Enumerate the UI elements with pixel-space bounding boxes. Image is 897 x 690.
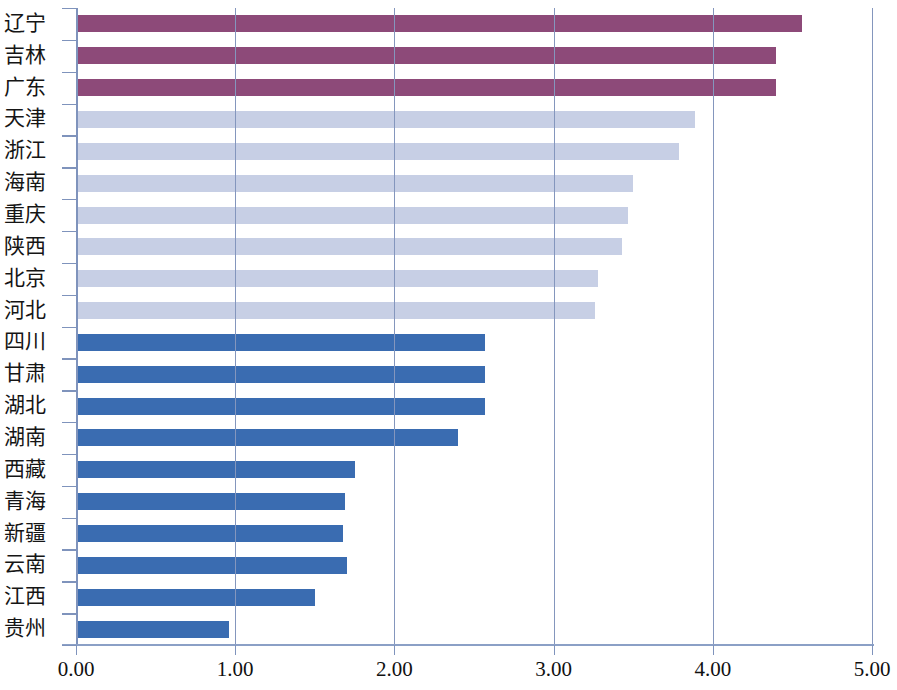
y-tick (62, 8, 76, 9)
bar-重庆 (78, 207, 628, 224)
y-tick (62, 263, 76, 264)
y-axis-label-四川: 四川 (4, 330, 46, 352)
x-tick-5.00 (872, 645, 873, 655)
y-tick (62, 104, 76, 105)
x-axis-label-3.00: 3.00 (535, 658, 572, 680)
y-tick (62, 645, 76, 646)
y-axis-label-陕西: 陕西 (4, 235, 46, 257)
bar-湖北 (78, 398, 485, 415)
bar-海南 (78, 175, 633, 192)
bar-chart: 辽宁吉林广东天津浙江海南重庆陕西北京河北四川甘肃湖北湖南西藏青海新疆云南江西贵州… (0, 0, 897, 690)
bar-广东 (78, 79, 776, 96)
y-tick (62, 581, 76, 582)
y-tick (62, 72, 76, 73)
y-tick (62, 327, 76, 328)
y-axis-labels: 辽宁吉林广东天津浙江海南重庆陕西北京河北四川甘肃湖北湖南西藏青海新疆云南江西贵州 (0, 0, 62, 690)
bar-云南 (78, 557, 347, 574)
y-axis-label-吉林: 吉林 (4, 44, 46, 66)
y-tick (62, 518, 76, 519)
bar-河北 (78, 302, 595, 319)
y-tick (62, 40, 76, 41)
gridline-5.00 (872, 8, 873, 645)
y-axis-label-青海: 青海 (4, 490, 46, 512)
x-axis-label-1.00: 1.00 (217, 658, 254, 680)
x-axis-label-5.00: 5.00 (854, 658, 891, 680)
y-tick (62, 422, 76, 423)
bar-天津 (78, 111, 695, 128)
bar-北京 (78, 270, 598, 287)
gridline-1.00 (235, 8, 236, 645)
x-axis-label-4.00: 4.00 (694, 658, 731, 680)
x-tick-1.00 (235, 645, 236, 655)
bar-青海 (78, 493, 345, 510)
bar-湖南 (78, 429, 458, 446)
bar-辽宁 (78, 15, 802, 32)
y-tick (62, 295, 76, 296)
bar-江西 (78, 589, 315, 606)
x-axis-label-2.00: 2.00 (376, 658, 413, 680)
bar-陕西 (78, 238, 622, 255)
x-axis-label-0.00: 0.00 (58, 658, 95, 680)
y-axis-label-天津: 天津 (4, 107, 46, 129)
y-tick (62, 231, 76, 232)
y-axis-label-北京: 北京 (4, 267, 46, 289)
bar-西藏 (78, 461, 355, 478)
plot-area (76, 8, 872, 645)
y-axis-label-甘肃: 甘肃 (4, 362, 46, 384)
y-tick (62, 549, 76, 550)
y-axis-label-湖南: 湖南 (4, 426, 46, 448)
y-tick (62, 358, 76, 359)
y-axis-label-浙江: 浙江 (4, 139, 46, 161)
x-tick-4.00 (713, 645, 714, 655)
y-axis-label-辽宁: 辽宁 (4, 12, 46, 34)
y-tick (62, 613, 76, 614)
bar-四川 (78, 334, 485, 351)
y-axis-label-贵州: 贵州 (4, 617, 46, 639)
y-tick (62, 135, 76, 136)
y-axis-label-河北: 河北 (4, 299, 46, 321)
y-axis-label-湖北: 湖北 (4, 394, 46, 416)
bar-浙江 (78, 143, 679, 160)
y-axis-label-重庆: 重庆 (4, 203, 46, 225)
x-tick-2.00 (394, 645, 395, 655)
bar-新疆 (78, 525, 343, 542)
x-tick-3.00 (554, 645, 555, 655)
y-tick (62, 199, 76, 200)
gridline-3.00 (554, 8, 555, 645)
y-axis-label-云南: 云南 (4, 553, 46, 575)
y-axis-label-海南: 海南 (4, 171, 46, 193)
gridline-4.00 (713, 8, 714, 645)
bar-吉林 (78, 47, 776, 64)
x-tick-0.00 (76, 645, 77, 655)
y-axis-label-广东: 广东 (4, 76, 46, 98)
gridline-2.00 (394, 8, 395, 645)
y-axis-label-新疆: 新疆 (4, 522, 46, 544)
y-tick (62, 486, 76, 487)
x-axis-line (62, 644, 874, 646)
bar-甘肃 (78, 366, 485, 383)
y-tick (62, 167, 76, 168)
y-axis-label-西藏: 西藏 (4, 458, 46, 480)
y-tick (62, 390, 76, 391)
y-axis-label-江西: 江西 (4, 585, 46, 607)
y-tick (62, 454, 76, 455)
bar-贵州 (78, 621, 229, 638)
